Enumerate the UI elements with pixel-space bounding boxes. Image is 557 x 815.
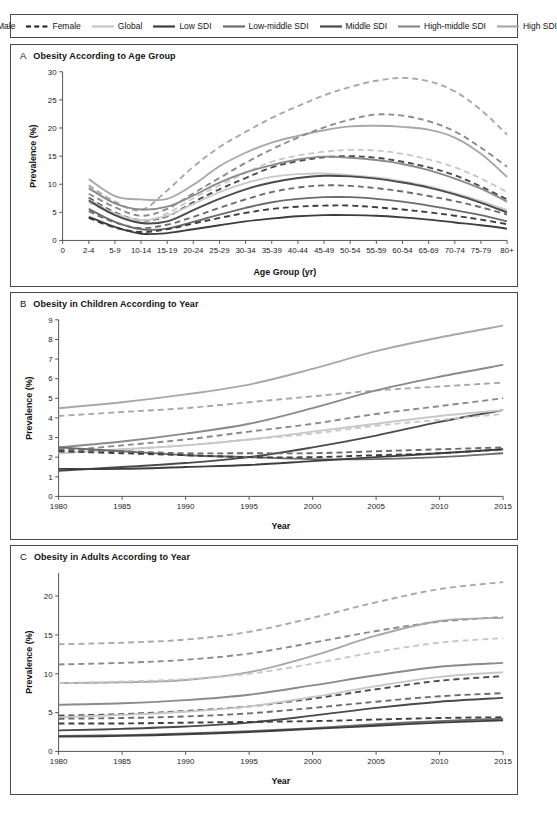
svg-text:9: 9 bbox=[48, 316, 53, 325]
series-line bbox=[59, 414, 503, 453]
panel-a-plot: 05101520253002-45-910-1415-1920-2425-293… bbox=[11, 61, 517, 279]
series-line bbox=[89, 173, 507, 220]
panel-c: C Obesity in Adults According to Year 05… bbox=[10, 545, 518, 795]
svg-text:50-54: 50-54 bbox=[340, 246, 361, 255]
svg-text:1990: 1990 bbox=[177, 502, 195, 511]
svg-text:0: 0 bbox=[48, 747, 53, 756]
legend-low-middle-sdi-label: Low-middle SDI bbox=[249, 22, 309, 31]
legend-middle-sdi-swatch-icon bbox=[320, 22, 342, 31]
svg-text:2: 2 bbox=[48, 453, 52, 462]
svg-text:2015: 2015 bbox=[494, 502, 512, 511]
svg-text:1990: 1990 bbox=[177, 757, 195, 766]
panel-b-header: B Obesity in Children According to Year bbox=[11, 293, 517, 309]
svg-text:40-44: 40-44 bbox=[288, 246, 309, 255]
svg-text:Year: Year bbox=[271, 776, 290, 786]
svg-text:7: 7 bbox=[48, 355, 52, 364]
svg-text:2005: 2005 bbox=[367, 757, 385, 766]
panel-a-header: A Obesity According to Age Group bbox=[11, 45, 517, 61]
svg-text:1980: 1980 bbox=[50, 502, 68, 511]
svg-text:55-59: 55-59 bbox=[366, 246, 387, 255]
svg-text:5: 5 bbox=[52, 208, 57, 217]
svg-text:60-54: 60-54 bbox=[392, 246, 413, 255]
svg-text:Prevalence (%): Prevalence (%) bbox=[24, 376, 34, 439]
svg-text:30: 30 bbox=[48, 68, 57, 77]
svg-text:10: 10 bbox=[44, 670, 53, 679]
legend-global[interactable]: Global bbox=[92, 22, 143, 31]
svg-text:25-29: 25-29 bbox=[209, 246, 230, 255]
svg-text:5: 5 bbox=[48, 394, 53, 403]
legend-low-middle-sdi-swatch-icon bbox=[223, 22, 245, 31]
svg-text:1: 1 bbox=[48, 473, 53, 482]
legend-high-sdi-label: High SDI bbox=[523, 22, 557, 31]
svg-text:65-69: 65-69 bbox=[419, 246, 440, 255]
svg-text:Prevalence (%): Prevalence (%) bbox=[24, 630, 34, 693]
figure-legend: MaleFemaleGlobalLow SDILow-middle SDIMid… bbox=[10, 14, 518, 38]
svg-text:2000: 2000 bbox=[304, 757, 322, 766]
series-line bbox=[89, 150, 507, 222]
svg-text:15: 15 bbox=[44, 631, 53, 640]
panel-c-plot: 0510152019801985199019952000200520102015… bbox=[11, 562, 517, 788]
panel-c-title: Obesity in Adults According to Year bbox=[34, 552, 190, 562]
legend-low-sdi-swatch-icon bbox=[153, 22, 175, 31]
panel-a-letter: A bbox=[20, 50, 26, 61]
legend-high-middle-sdi-swatch-icon bbox=[398, 22, 420, 31]
legend-low-middle-sdi[interactable]: Low-middle SDI bbox=[223, 22, 309, 31]
svg-text:2010: 2010 bbox=[431, 757, 449, 766]
legend-high-sdi[interactable]: High SDI bbox=[497, 22, 557, 31]
panel-b-title: Obesity in Children According to Year bbox=[33, 299, 198, 309]
legend-female[interactable]: Female bbox=[26, 22, 80, 31]
legend-female-label: Female bbox=[52, 22, 80, 31]
legend-global-label: Global bbox=[118, 22, 143, 31]
svg-text:5-9: 5-9 bbox=[109, 246, 121, 255]
svg-text:6: 6 bbox=[48, 374, 53, 383]
svg-text:15: 15 bbox=[48, 152, 57, 161]
legend-female-swatch-icon bbox=[26, 22, 48, 31]
svg-text:Age Group (yr): Age Group (yr) bbox=[253, 267, 316, 277]
svg-text:0: 0 bbox=[60, 246, 65, 255]
svg-text:10: 10 bbox=[48, 180, 57, 189]
legend-male[interactable]: Male bbox=[0, 22, 15, 31]
legend-high-sdi-swatch-icon bbox=[497, 22, 519, 31]
legend-male-label: Male bbox=[0, 22, 15, 31]
series-line bbox=[89, 156, 507, 220]
svg-text:15-19: 15-19 bbox=[157, 246, 178, 255]
svg-text:1980: 1980 bbox=[50, 757, 68, 766]
panel-b-letter: B bbox=[20, 298, 26, 309]
svg-text:75-79: 75-79 bbox=[471, 246, 492, 255]
svg-text:8: 8 bbox=[48, 335, 53, 344]
panel-b-plot: 0123456789198019851990199520002005201020… bbox=[11, 309, 517, 533]
svg-text:1985: 1985 bbox=[113, 502, 131, 511]
legend-items: MaleFemaleGlobalLow SDILow-middle SDIMid… bbox=[0, 22, 557, 31]
legend-middle-sdi[interactable]: Middle SDI bbox=[320, 22, 388, 31]
svg-text:1985: 1985 bbox=[113, 757, 131, 766]
svg-text:Year: Year bbox=[271, 521, 290, 531]
svg-text:1995: 1995 bbox=[240, 502, 258, 511]
series-line bbox=[59, 398, 503, 451]
panel-b: B Obesity in Children According to Year … bbox=[10, 292, 518, 540]
legend-global-swatch-icon bbox=[92, 22, 114, 31]
svg-text:5: 5 bbox=[48, 708, 53, 717]
svg-text:80+: 80+ bbox=[500, 246, 514, 255]
svg-text:1995: 1995 bbox=[240, 757, 258, 766]
svg-text:45-49: 45-49 bbox=[314, 246, 335, 255]
legend-low-sdi-label: Low SDI bbox=[179, 22, 211, 31]
svg-text:2-4: 2-4 bbox=[83, 246, 95, 255]
legend-low-sdi[interactable]: Low SDI bbox=[153, 22, 211, 31]
svg-text:10-14: 10-14 bbox=[131, 246, 152, 255]
panel-c-letter: C bbox=[20, 551, 27, 562]
svg-text:20: 20 bbox=[44, 592, 53, 601]
svg-text:70-74: 70-74 bbox=[445, 246, 466, 255]
svg-text:2000: 2000 bbox=[304, 502, 322, 511]
series-line bbox=[59, 617, 503, 664]
legend-high-middle-sdi[interactable]: High-middle SDI bbox=[398, 22, 486, 31]
svg-text:2010: 2010 bbox=[431, 502, 449, 511]
series-line bbox=[89, 157, 507, 210]
legend-middle-sdi-label: Middle SDI bbox=[346, 22, 388, 31]
svg-text:0: 0 bbox=[48, 492, 53, 501]
panel-c-header: C Obesity in Adults According to Year bbox=[11, 546, 517, 562]
series-line bbox=[59, 383, 503, 416]
svg-text:Prevalence (%): Prevalence (%) bbox=[28, 124, 38, 187]
svg-text:2005: 2005 bbox=[367, 502, 385, 511]
series-line bbox=[59, 326, 503, 408]
